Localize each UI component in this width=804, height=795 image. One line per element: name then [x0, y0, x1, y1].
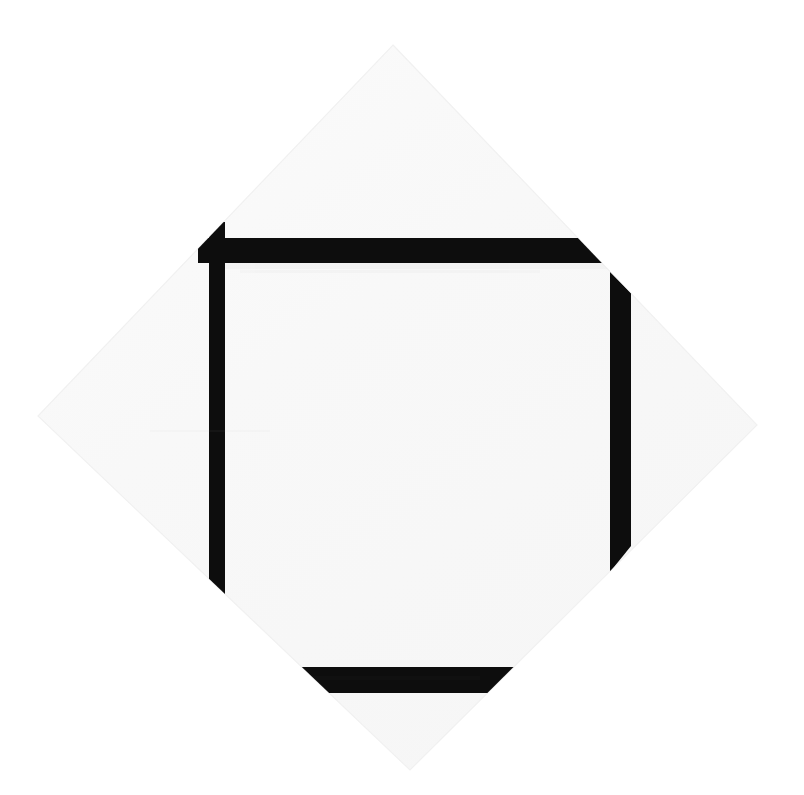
line-top-horizontal	[198, 238, 618, 263]
line-right-vertical	[610, 272, 631, 572]
artwork-stage: Lozenge Composition with Four Black Line…	[0, 0, 804, 795]
line-left-vertical	[209, 222, 225, 616]
artwork-canvas	[0, 0, 804, 795]
